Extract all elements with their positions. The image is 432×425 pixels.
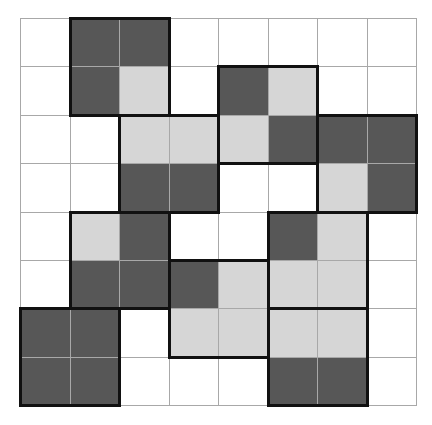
grid-cell-7-3-empty xyxy=(169,357,220,406)
grid-cell-5-7-empty xyxy=(367,260,418,309)
grid-cell-6-2-empty xyxy=(119,308,170,357)
grid-cell-0-4-empty xyxy=(218,18,269,67)
grid-cell-4-0-empty xyxy=(20,212,71,261)
grid-cell-4-3-empty xyxy=(169,212,220,261)
grid-cell-1-6-empty xyxy=(317,66,368,115)
puzzle-piece-c xyxy=(118,114,220,214)
grid-cell-6-7-empty xyxy=(367,308,418,357)
grid-cell-2-0-empty xyxy=(20,115,71,164)
grid-cell-7-7-empty xyxy=(367,357,418,406)
grid-cell-3-0-empty xyxy=(20,163,71,212)
puzzle-piece-e xyxy=(69,211,171,311)
puzzle-grid xyxy=(20,18,416,405)
grid-cell-0-3-empty xyxy=(169,18,220,67)
grid-cell-0-0-empty xyxy=(20,18,71,67)
puzzle-piece-i xyxy=(267,307,369,407)
puzzle-piece-b xyxy=(217,65,319,165)
puzzle-piece-g xyxy=(168,259,270,359)
puzzle-piece-h xyxy=(19,307,121,407)
grid-cell-1-7-empty xyxy=(367,66,418,115)
grid-cell-7-4-empty xyxy=(218,357,269,406)
grid-cell-5-0-empty xyxy=(20,260,71,309)
grid-cell-4-4-empty xyxy=(218,212,269,261)
puzzle-piece-f xyxy=(267,211,369,311)
grid-cell-1-3-empty xyxy=(169,66,220,115)
grid-cell-2-1-empty xyxy=(70,115,121,164)
grid-cell-1-0-empty xyxy=(20,66,71,115)
grid-cell-0-7-empty xyxy=(367,18,418,67)
grid-cell-3-4-empty xyxy=(218,163,269,212)
puzzle-piece-d xyxy=(316,114,418,214)
grid-cell-4-7-empty xyxy=(367,212,418,261)
grid-cell-0-6-empty xyxy=(317,18,368,67)
puzzle-piece-a xyxy=(69,17,171,117)
grid-cell-3-1-empty xyxy=(70,163,121,212)
grid-cell-3-5-empty xyxy=(268,163,319,212)
grid-cell-7-2-empty xyxy=(119,357,170,406)
grid-cell-0-5-empty xyxy=(268,18,319,67)
